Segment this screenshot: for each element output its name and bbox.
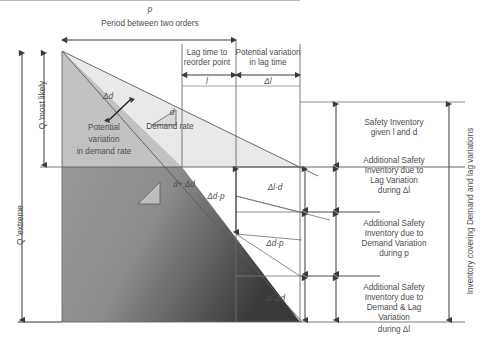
lagvar-label-line2: in lag time <box>208 58 328 68</box>
lagvar-label-line1: Potential variation <box>208 48 328 58</box>
period-label: Period between two orders <box>0 19 300 29</box>
q-most-likely-label: Q 'most likely <box>38 50 48 160</box>
caption-fragment <box>0 352 483 358</box>
legend-1-line-0: Additional Safety <box>344 156 444 166</box>
bracket-symbol-2: Δl·Δd <box>250 294 300 304</box>
legend-0-line-0: Safety Inventory <box>344 118 444 128</box>
demand-plus-delta-label: d+ Δd <box>160 180 208 190</box>
bracket-symbol-1: Δd·p <box>253 239 297 249</box>
legend-2-line-1: Inventory due to <box>344 229 444 239</box>
potential-variation-line3: in demand rate <box>56 147 152 157</box>
legend-3-line-4: during Δl <box>344 325 444 335</box>
legend-1-line-3: during Δl <box>344 186 444 196</box>
right-axis-label: Inventory covering Demand and lag variat… <box>466 100 476 322</box>
legend-3-line-0: Additional Safety <box>344 283 444 293</box>
legend-1-line-1: Inventory due to <box>344 166 444 176</box>
delta-d-label: Δd <box>96 92 120 102</box>
lagvar-symbol: Δl <box>208 77 328 87</box>
demand-rate-symbol: d <box>165 108 179 118</box>
figure-canvas: p Period between two orders Lag time to … <box>0 0 483 358</box>
legend-0-line-1: given l and d <box>344 128 444 138</box>
legend-3-line-2: Demand & Lag <box>344 303 444 313</box>
q-extreme-label: Q 'extreme <box>16 160 26 290</box>
legend-2-line-0: Additional Safety <box>344 219 444 229</box>
potential-variation-line1: Potential <box>62 123 146 133</box>
legend-1-line-2: Lag Variation <box>344 176 444 186</box>
legend-3-line-3: Variation <box>344 313 444 323</box>
legend-3-line-1: Inventory due to <box>344 293 444 303</box>
legend-2-line-3: during p <box>344 249 444 259</box>
legend-2-line-2: Demand Variation <box>344 239 444 249</box>
potential-variation-line2: variation <box>62 135 146 145</box>
delta-dp-inner-label: Δd·p <box>200 192 232 202</box>
period-symbol: p <box>0 5 300 15</box>
bracket-symbol-0: Δl·d <box>253 183 297 193</box>
